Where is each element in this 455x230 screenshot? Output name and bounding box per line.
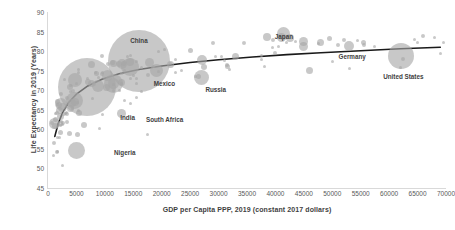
y-tick-label: 50 (26, 165, 44, 172)
x-axis-title: GDP per Capita PPP, 2019 (constant 2017 … (48, 206, 446, 213)
x-tick-label: 5000 (69, 190, 83, 197)
point-label: Japan (275, 33, 293, 40)
data-point-bubble (442, 41, 445, 44)
data-point-bubble (121, 61, 126, 66)
y-tick-label: 70 (26, 87, 44, 94)
data-point-bubble (58, 136, 61, 139)
data-point-bubble (433, 36, 436, 39)
data-point-bubble (60, 120, 63, 123)
data-point-bubble (416, 41, 419, 44)
data-point-bubble (135, 82, 138, 85)
data-point-bubble (97, 76, 100, 79)
point-label: Russia (205, 86, 226, 93)
point-label: Mexico (154, 80, 175, 87)
data-point-bubble (336, 43, 340, 47)
data-point-bubble (101, 71, 104, 74)
data-point-bubble (135, 60, 138, 63)
x-tick-label: 60000 (380, 190, 398, 197)
data-point-bubble (77, 109, 80, 112)
data-point-bubble (169, 62, 172, 65)
x-tick-label: 15000 (124, 190, 142, 197)
data-point-bubble (188, 48, 193, 53)
data-point-bubble (263, 65, 266, 68)
data-point-bubble (58, 130, 63, 135)
point-label: Nigeria (114, 149, 135, 156)
data-point-bubble (135, 96, 138, 99)
data-point-bubble (68, 142, 85, 159)
data-point-bubble (129, 77, 132, 80)
data-point-bubble (327, 36, 332, 41)
data-point-bubble (271, 46, 274, 49)
data-point-bubble (211, 41, 215, 45)
x-tick-label: 65000 (409, 190, 427, 197)
point-label: South Africa (146, 116, 183, 123)
x-tick-label: 45000 (295, 190, 313, 197)
data-point-bubble (331, 60, 334, 63)
x-tick-label: 70000 (437, 190, 455, 197)
data-point-bubble (146, 133, 149, 136)
data-point-bubble (277, 45, 280, 48)
point-label: India (120, 114, 135, 121)
data-point-bubble (59, 92, 63, 96)
x-tick-label: 40000 (266, 190, 284, 197)
data-point-bubble (399, 66, 402, 69)
data-point-bubble (306, 67, 313, 74)
data-point-bubble (362, 43, 366, 47)
data-point-bubble (98, 127, 101, 130)
x-tick-label: 35000 (238, 190, 256, 197)
data-point-bubble (146, 73, 150, 77)
y-tick-label: 85 (26, 28, 44, 35)
x-tick-label: 10000 (96, 190, 114, 197)
point-label: United States (383, 73, 423, 80)
x-tick-label: 0 (46, 190, 50, 197)
x-tick-label: 30000 (210, 190, 228, 197)
y-tick-label: 75 (26, 67, 44, 74)
x-tick-label: 25000 (181, 190, 199, 197)
data-point-bubble (112, 89, 115, 92)
y-tick-label: 65 (26, 106, 44, 113)
y-tick-label: 80 (26, 48, 44, 55)
y-tick-label: 90 (26, 9, 44, 16)
point-label: China (130, 37, 148, 44)
data-point-bubble (152, 65, 155, 68)
bubble-chart: Life Expectancy in 2019 (Years) GDP per … (0, 0, 455, 230)
data-point-bubble (317, 42, 320, 45)
x-tick-label: 50000 (323, 190, 341, 197)
data-point-bubble (112, 83, 115, 86)
data-point-bubble (118, 89, 121, 92)
y-tick-label: 55 (26, 145, 44, 152)
data-point-bubble (81, 122, 87, 128)
data-point-bubble (52, 154, 55, 157)
x-axis-line (47, 188, 446, 189)
data-point-bubble (388, 43, 414, 69)
data-point-bubble (294, 40, 297, 43)
data-point-bubble (100, 54, 104, 58)
data-point-bubble (285, 41, 288, 44)
data-point-bubble (342, 38, 346, 42)
data-point-bubble (132, 74, 135, 77)
data-point-bubble (91, 97, 94, 100)
data-point-bubble (260, 58, 263, 61)
data-point-bubble (67, 131, 72, 136)
data-point-bubble (88, 61, 95, 68)
point-label: Germany (339, 53, 366, 60)
data-point-bubble (55, 111, 59, 115)
x-axis-tick-labels: 0500010000150002000025000300003500040000… (0, 190, 455, 202)
x-tick-label: 55000 (352, 190, 370, 197)
y-tick-label: 60 (26, 126, 44, 133)
plot-area: ChinaMexicoRussiaJapanGermanyUnited Stat… (48, 12, 446, 188)
data-point-bubble (129, 54, 132, 57)
data-point-bubble (106, 62, 110, 66)
data-point-bubble (232, 53, 239, 60)
x-tick-label: 20000 (153, 190, 171, 197)
